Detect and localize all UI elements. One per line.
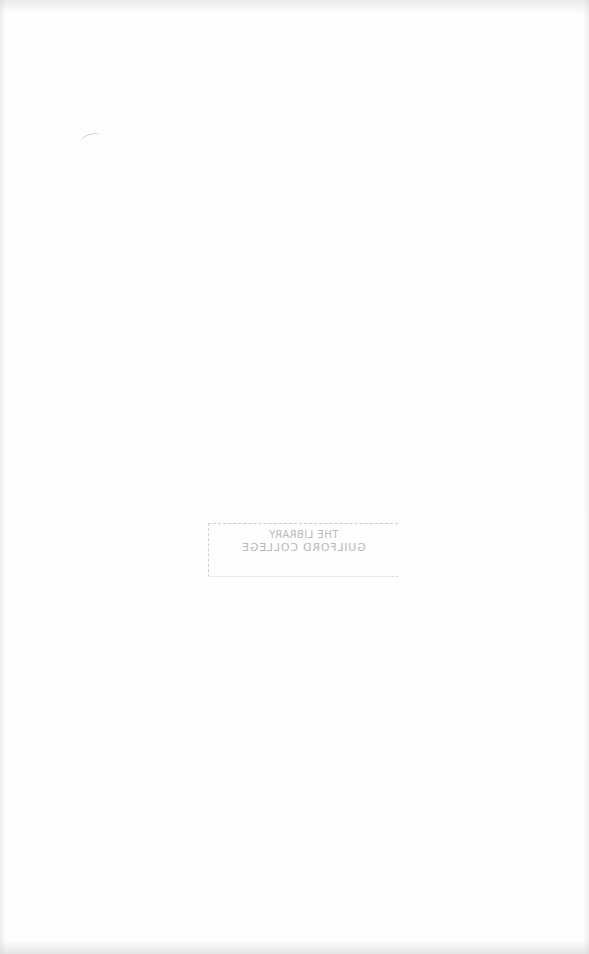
page-edge-left [0, 0, 6, 954]
paper-mark [79, 131, 101, 146]
scanned-page: THE LIBRARY GUILFORD COLLEGE [0, 0, 589, 954]
page-edge-top [0, 0, 589, 14]
stamp-line-college: GUILFORD COLLEGE [209, 541, 398, 554]
page-edge-bottom [0, 940, 589, 954]
stamp-line-library: THE LIBRARY [209, 529, 398, 541]
page-edge-right [583, 0, 589, 954]
library-stamp: THE LIBRARY GUILFORD COLLEGE [208, 523, 398, 577]
